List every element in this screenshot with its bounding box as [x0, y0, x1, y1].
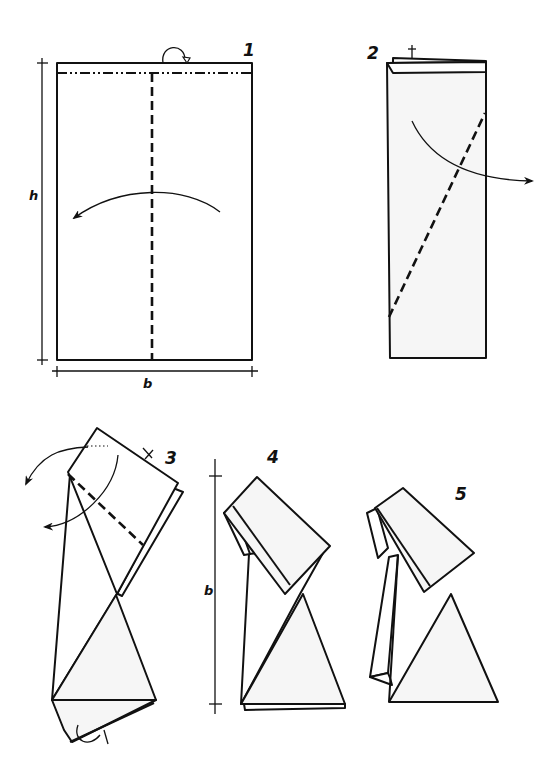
step-3-number: 3	[165, 448, 177, 468]
step-5-number: 5	[455, 484, 467, 504]
step-4: 4 b	[204, 447, 345, 714]
step-2-number: 2	[367, 43, 379, 63]
origami-diagram: 1 h b 2 3	[0, 0, 557, 782]
step-1-sheet	[57, 63, 252, 360]
step-1: 1 h b	[29, 40, 258, 391]
dimension-label-b: b	[143, 376, 152, 391]
step-2-sheet	[387, 62, 486, 358]
dimension-label-h: h	[29, 188, 38, 203]
dimension-label-b: b	[204, 583, 213, 598]
step-5: 5	[367, 484, 498, 702]
step-3: 3	[26, 428, 183, 744]
step-4-number: 4	[266, 447, 279, 467]
step-1-number: 1	[243, 40, 255, 60]
turn-over-arrow-icon	[163, 48, 185, 63]
step-2: 2	[367, 43, 532, 358]
